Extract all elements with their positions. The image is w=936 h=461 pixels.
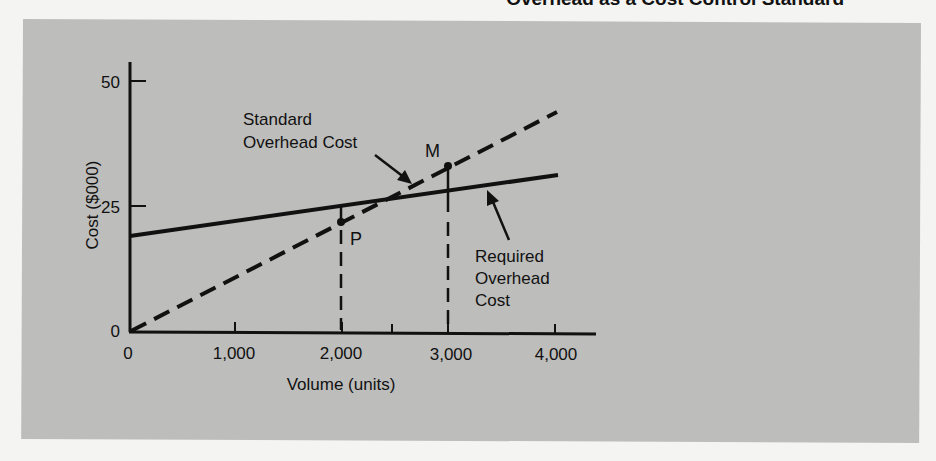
y-axis-title: Cost ($000) (83, 161, 102, 250)
x-tick-1000: 1,000 (213, 344, 256, 363)
required-label-line1: Required (475, 247, 544, 266)
point-p-marker (337, 218, 345, 226)
x-tick-0: 0 (123, 344, 132, 363)
y-axis (130, 62, 146, 332)
y-tick-0: 0 (111, 322, 120, 341)
y-tick-25: 25 (101, 198, 120, 217)
required-label-line3: Cost (475, 291, 510, 310)
standard-overhead-annotation: Standard Overhead Cost (243, 110, 412, 184)
x-tick-2000: 2,000 (320, 344, 363, 363)
point-p-label: P (350, 229, 362, 249)
y-tick-50: 50 (101, 73, 120, 92)
standard-label-line1: Standard (243, 110, 312, 129)
x-axis (129, 322, 596, 334)
standard-label-line2: Overhead Cost (243, 133, 358, 152)
x-tick-4000: 4,000 (535, 345, 578, 364)
x-axis-title: Volume (units) (287, 375, 396, 394)
y-tick-labels: 50 25 0 (101, 73, 120, 341)
point-m-label: M (425, 141, 440, 161)
x-tick-labels: 0 1,000 2,000 3,000 4,000 (123, 344, 577, 364)
required-overhead-annotation: Required Overhead Cost (475, 190, 550, 310)
required-label-line2: Overhead (475, 269, 550, 288)
point-m-marker (444, 162, 452, 170)
chart-canvas: 50 25 0 0 1,000 2,000 3,000 4,000 Volume… (0, 0, 936, 461)
x-tick-3000: 3,000 (430, 345, 473, 364)
